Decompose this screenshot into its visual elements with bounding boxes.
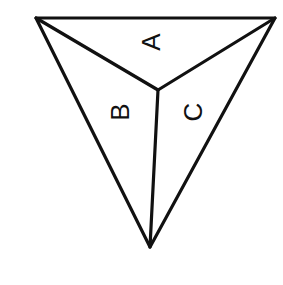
edge-center-bottom [150,90,158,247]
edge-center-top-right [158,18,275,90]
face-label-c: C [178,103,208,122]
face-label-a: A [136,33,166,51]
face-label-b: B [105,103,135,120]
pyramid-diagram: A B C [0,0,283,285]
